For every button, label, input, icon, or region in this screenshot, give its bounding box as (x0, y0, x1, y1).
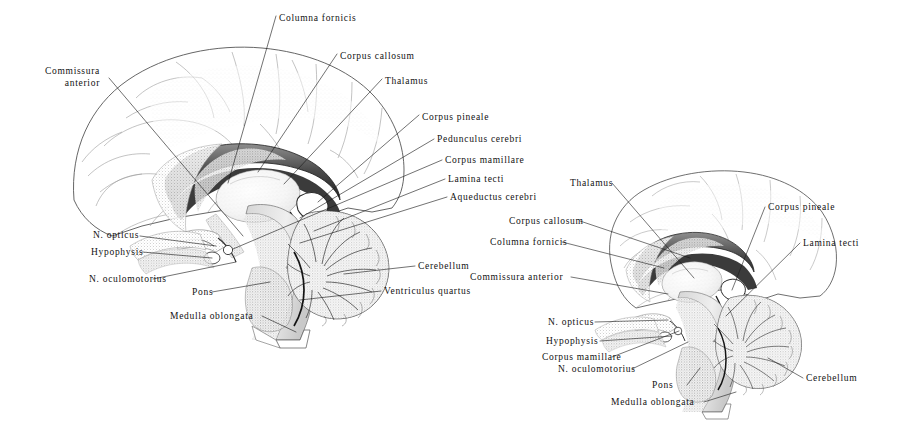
label-hypophysis-left: Hypophysis (91, 247, 143, 258)
label-corpus-mamillare-left: Corpus mamillare (445, 155, 525, 166)
label-corpus-callosum-left: Corpus callosum (340, 51, 415, 62)
label-pons-right: Pons (652, 380, 673, 391)
brain-sagittal-sections-illustration (0, 0, 899, 446)
label-columna-fornicis-left: Columna fornicis (279, 13, 356, 24)
label-lamina-tecti-left: Lamina tecti (448, 174, 504, 185)
label-thalamus-right: Thalamus (570, 178, 613, 189)
label-medulla-oblongata-right: Medulla oblongata (611, 397, 694, 408)
label-cerebellum-left: Cerebellum (418, 261, 469, 272)
label-n-opticus-left: N. opticus (93, 230, 139, 241)
label-corpus-callosum-right: Corpus callosum (509, 216, 584, 227)
label-commissura-anterior-right: Commissura anterior (470, 272, 563, 283)
label-n-opticus-right: N. opticus (548, 317, 594, 328)
label-corpus-pineale-right: Corpus pineale (768, 202, 835, 213)
label-columna-fornicis-right: Columna fornicis (490, 237, 567, 248)
label-corpus-mamillare-right: Corpus mamillare (542, 352, 622, 363)
label-corpus-pineale-left: Corpus pineale (422, 112, 489, 123)
anatomical-plate: Commissura anterior Columna fornicis Cor… (0, 0, 899, 446)
label-lamina-tecti-right: Lamina tecti (803, 238, 859, 249)
label-pons-left: Pons (192, 287, 213, 298)
label-hypophysis-right: Hypophysis (546, 336, 598, 347)
label-n-oculomotorius-left: N. oculomotorius (89, 274, 167, 285)
label-n-oculomotorius-right: N. oculomotorius (558, 364, 636, 375)
label-pedunculus-cerebri-left: Pedunculus cerebri (437, 134, 522, 145)
label-medulla-oblongata-left: Medulla oblongata (170, 311, 253, 322)
label-aqueductus-cerebri-left: Aqueductus cerebri (450, 192, 537, 203)
label-ventriculus-quartus-left: Ventriculus quartus (384, 286, 471, 297)
label-cerebellum-right: Cerebellum (806, 373, 857, 384)
label-commissura-anterior-left: Commissura anterior (0, 66, 100, 89)
label-thalamus-left: Thalamus (385, 76, 428, 87)
